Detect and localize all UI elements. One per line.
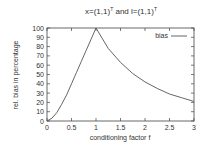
- x-axis-label: conditioning factor f: [90, 134, 151, 142]
- y-tick-label: 60: [36, 62, 44, 69]
- y-tick-label: 50: [36, 71, 44, 78]
- x-tick-label: 1.5: [116, 124, 126, 131]
- x-tick-label: 1: [94, 124, 98, 131]
- x-axis: 00.511.522.53: [45, 28, 196, 131]
- x-tick-label: 2.5: [165, 124, 175, 131]
- x-tick-label: 3: [192, 124, 196, 131]
- plot-frame: [47, 28, 194, 121]
- y-tick-label: 90: [36, 34, 44, 41]
- bias-line: [47, 28, 194, 121]
- x-tick-label: 2: [143, 124, 147, 131]
- x-tick-label: 0.5: [67, 124, 77, 131]
- y-tick-label: 70: [36, 52, 44, 59]
- y-tick-label: 10: [36, 108, 44, 115]
- legend-label: bias: [155, 32, 168, 39]
- y-tick-label: 100: [32, 25, 44, 32]
- x-tick-label: 0: [45, 124, 49, 131]
- y-tick-label: 40: [36, 80, 44, 87]
- y-tick-label: 20: [36, 99, 44, 106]
- y-tick-label: 80: [36, 43, 44, 50]
- y-axis-label: rel. bias in percentage: [12, 40, 20, 109]
- y-tick-label: 0: [40, 118, 44, 125]
- y-tick-label: 30: [36, 90, 44, 97]
- bias-chart: x=(1,1)T and l=(1,1)T 010203040506070809…: [0, 0, 209, 152]
- y-axis: 0102030405060708090100: [32, 25, 194, 125]
- chart-title: x=(1,1)T and l=(1,1)T: [85, 6, 157, 16]
